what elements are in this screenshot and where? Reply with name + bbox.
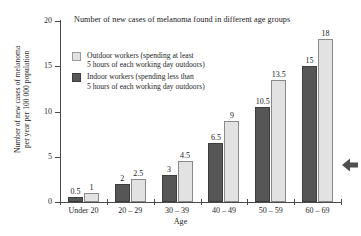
bar-indoor (68, 197, 83, 202)
arrow-left-icon (341, 155, 359, 175)
legend-item-outdoor: Outdoor workers (spending at least 5 hou… (72, 51, 205, 69)
legend-item-indoor: Indoor workers (spending less than 5 hou… (72, 72, 205, 90)
bar-outdoor (224, 121, 239, 202)
y-axis-title: Number of new cases of melanoma per year… (13, 29, 32, 169)
y-axis-tick-label: 10 (32, 108, 52, 116)
legend-swatch-indoor-icon (72, 73, 81, 82)
y-axis-tick-label: 15 (32, 62, 52, 70)
bar-outdoor (178, 161, 193, 202)
bar-indoor (255, 107, 270, 202)
y-axis-tick-label: 0 (32, 198, 52, 206)
y-axis-title-line1: Number of new cases of melanoma (13, 46, 22, 153)
bar-value-label: 2.5 (125, 170, 151, 178)
y-axis-title-line2: per year per 100 000 population (22, 51, 31, 148)
bar-outdoor (84, 193, 99, 202)
bar-value-label: 4.5 (172, 152, 198, 160)
bar-outdoor (318, 39, 333, 202)
x-axis-title: Age (0, 217, 361, 226)
bar-indoor (115, 184, 130, 202)
bar-value-label: 13.5 (266, 71, 292, 79)
legend-label-outdoor: Outdoor workers (spending at least 5 hou… (87, 51, 205, 69)
bar-value-label: 18 (313, 30, 339, 38)
legend-label-indoor-line1: Indoor workers (spending less than (87, 72, 194, 81)
x-axis-tick (341, 199, 342, 205)
chart-legend: Outdoor workers (spending at least 5 hou… (72, 51, 205, 94)
bar-indoor (302, 66, 317, 202)
y-axis-tick-label: 20 (32, 17, 52, 25)
plot-area: 0.5122.534.56.5910.513.51518 (60, 21, 341, 202)
bar-value-label: 1 (78, 184, 104, 192)
x-axis-category-label: 60 – 69 (290, 206, 346, 215)
melanoma-bar-chart-figure: Number of new cases of melanoma found in… (0, 0, 361, 236)
bar-outdoor (271, 80, 286, 202)
bar-indoor (162, 175, 177, 202)
legend-label-indoor: Indoor workers (spending less than 5 hou… (87, 72, 205, 90)
bar-outdoor (131, 179, 146, 202)
legend-label-indoor-line2: 5 hours of each working day outdoors) (87, 82, 205, 91)
legend-swatch-outdoor-icon (72, 52, 81, 61)
legend-label-outdoor-line2: 5 hours of each working day outdoors) (87, 60, 205, 69)
bar-indoor (208, 143, 223, 202)
legend-label-outdoor-line1: Outdoor workers (spending at least (87, 51, 194, 60)
y-axis-tick-label: 5 (32, 153, 52, 161)
bar-value-label: 9 (219, 112, 245, 120)
